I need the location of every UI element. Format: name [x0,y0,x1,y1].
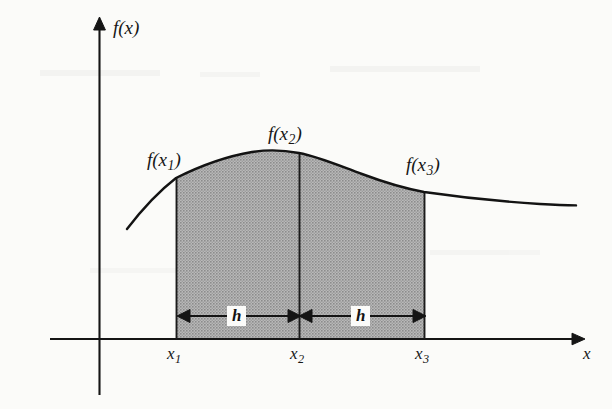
h-label-right: h [351,306,370,326]
tick-label-x3: x3 [415,345,429,362]
y-axis-label: f(x) [113,18,139,37]
ordinate-label-fx3: f(x3) [406,155,440,174]
y-axis-arrowhead [94,17,106,30]
figure-svg [0,0,612,409]
tick-label-x1: x1 [167,345,181,362]
tick-label-x2: x2 [290,345,304,362]
ordinate-label-fx1: f(x1) [147,150,181,169]
x-axis-label: x [583,345,591,362]
figure-canvas: f(x) f(x1) f(x2) f(x3) x1 x2 x3 x h h [0,0,612,409]
ordinate-label-fx2: f(x2) [268,124,302,143]
h-label-left: h [227,306,246,326]
